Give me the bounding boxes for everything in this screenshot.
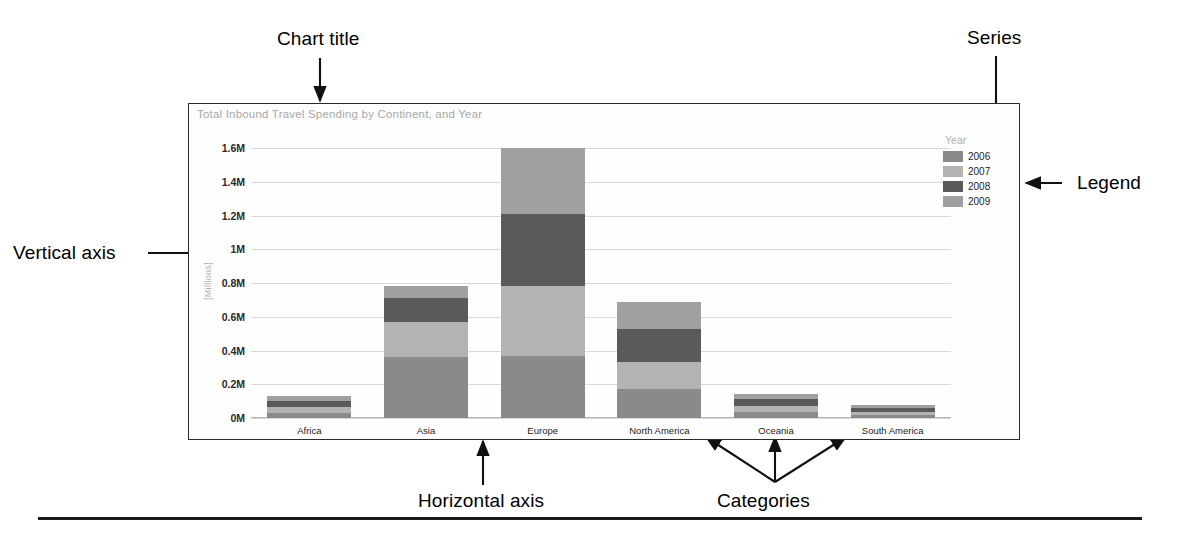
scan-artifact bbox=[95, 78, 100, 98]
bar-category-oceania[interactable]: Oceania bbox=[718, 148, 835, 418]
bar-segment-2008[interactable] bbox=[384, 298, 468, 322]
legend-label: 2009 bbox=[968, 196, 990, 207]
bar-category-north-america[interactable]: North America bbox=[601, 148, 718, 418]
bar-segment-2006[interactable] bbox=[267, 413, 351, 418]
legend-item-2007[interactable]: 2007 bbox=[943, 166, 1009, 177]
legend-label: 2006 bbox=[968, 151, 990, 162]
legend-item-2008[interactable]: 2008 bbox=[943, 181, 1009, 192]
legend-swatch-2009 bbox=[943, 196, 963, 207]
bar-category-europe[interactable]: Europe bbox=[484, 148, 601, 418]
y-axis-tick-label: 0M bbox=[230, 412, 245, 424]
x-axis-tick-label: North America bbox=[629, 425, 689, 436]
y-axis-tick-label: 0.8M bbox=[222, 277, 245, 289]
legend-item-2006[interactable]: 2006 bbox=[943, 151, 1009, 162]
bar-stack bbox=[617, 302, 701, 418]
legend-rows: 2006200720082009 bbox=[943, 151, 1009, 207]
legend-swatch-2006 bbox=[943, 151, 963, 162]
bar-stack bbox=[384, 286, 468, 418]
gridline bbox=[251, 418, 951, 419]
bar-segment-2009[interactable] bbox=[384, 286, 468, 298]
page-divider bbox=[38, 517, 1142, 520]
bar-category-asia[interactable]: Asia bbox=[368, 148, 485, 418]
legend-swatch-2007 bbox=[943, 166, 963, 177]
bar-segment-2006[interactable] bbox=[851, 415, 935, 418]
bar-segment-2009[interactable] bbox=[617, 302, 701, 329]
legend-swatch-2008 bbox=[943, 181, 963, 192]
legend-label: 2007 bbox=[968, 166, 990, 177]
bar-segment-2007[interactable] bbox=[617, 362, 701, 389]
x-axis-tick-label: Asia bbox=[417, 425, 435, 436]
bar-segment-2006[interactable] bbox=[734, 412, 818, 418]
series-callout: Series bbox=[967, 27, 1021, 49]
y-axis-tick-label: 1.4M bbox=[222, 176, 245, 188]
legend-label: 2008 bbox=[968, 181, 990, 192]
y-axis-tick-label: 1.6M bbox=[222, 142, 245, 154]
y-axis-tick-label: 0.4M bbox=[222, 345, 245, 357]
y-axis-tick-label: 0.2M bbox=[222, 378, 245, 390]
bar-segment-2007[interactable] bbox=[501, 286, 585, 355]
bar-stack bbox=[501, 148, 585, 418]
bar-stack bbox=[267, 396, 351, 418]
bar-category-africa[interactable]: Africa bbox=[251, 148, 368, 418]
legend-callout: Legend bbox=[1077, 172, 1141, 194]
chart-title-callout: Chart title bbox=[277, 28, 359, 50]
bar-segment-2008[interactable] bbox=[501, 214, 585, 287]
horizontal-axis-callout: Horizontal axis bbox=[418, 490, 544, 512]
chart-container[interactable]: Total Inbound Travel Spending by Contine… bbox=[188, 103, 1020, 440]
x-axis-tick-label: Europe bbox=[527, 425, 558, 436]
y-axis-tick-label: 1M bbox=[230, 243, 245, 255]
categories-callout: Categories bbox=[717, 490, 810, 512]
legend-title: Year bbox=[943, 134, 1009, 146]
chart-title: Total Inbound Travel Spending by Contine… bbox=[197, 108, 482, 120]
bar-segment-2006[interactable] bbox=[617, 389, 701, 418]
legend[interactable]: Year 2006200720082009 bbox=[943, 134, 1009, 211]
bar-segment-2006[interactable] bbox=[501, 356, 585, 418]
bar-stack bbox=[734, 394, 818, 418]
vertical-axis-callout: Vertical axis bbox=[13, 242, 116, 264]
bar-segment-2008[interactable] bbox=[617, 329, 701, 363]
bar-category-south-america[interactable]: South America bbox=[834, 148, 951, 418]
bar-series-layer: AfricaAsiaEuropeNorth AmericaOceaniaSout… bbox=[251, 148, 951, 418]
y-axis-tick-label: 0.6M bbox=[222, 311, 245, 323]
x-axis-tick-label: Africa bbox=[297, 425, 321, 436]
legend-item-2009[interactable]: 2009 bbox=[943, 196, 1009, 207]
bar-segment-2009[interactable] bbox=[501, 148, 585, 214]
bar-segment-2007[interactable] bbox=[384, 322, 468, 357]
vertical-axis-title: [Millions] bbox=[203, 262, 213, 300]
y-axis-tick-label: 1.2M bbox=[222, 210, 245, 222]
bar-stack bbox=[851, 405, 935, 418]
x-axis-tick-label: Oceania bbox=[758, 425, 793, 436]
plot-area: 1.6M1.4M1.2M1M0.8M0.6M0.4M0.2M0M AfricaA… bbox=[251, 148, 951, 418]
bar-segment-2006[interactable] bbox=[384, 357, 468, 418]
x-axis-tick-label: South America bbox=[862, 425, 924, 436]
